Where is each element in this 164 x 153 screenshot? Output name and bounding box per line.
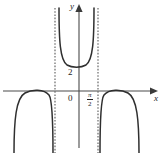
origin-label: 0 bbox=[68, 94, 73, 103]
curve-branch-right bbox=[100, 90, 139, 153]
curve-branch-left bbox=[14, 90, 53, 153]
y-axis-label: y bbox=[70, 2, 74, 11]
y-axis-arrowhead bbox=[75, 4, 82, 12]
x-axis-label: x bbox=[154, 94, 158, 103]
x-tick-pi-numerator: π bbox=[87, 92, 93, 100]
graph-canvas bbox=[0, 0, 164, 153]
x-tick-label-pi-over-2: π 2 bbox=[87, 92, 93, 108]
curve-branch-center bbox=[59, 8, 94, 67]
function-graph-figure: y x 2 0 π 2 bbox=[0, 0, 164, 153]
x-tick-pi-denominator: 2 bbox=[87, 100, 93, 108]
y-tick-label-2: 2 bbox=[68, 68, 73, 77]
